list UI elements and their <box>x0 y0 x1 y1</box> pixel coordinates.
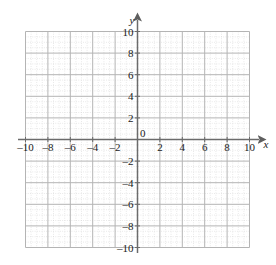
x-tick-label: 8 <box>224 141 230 153</box>
coordinate-plane-figure: –10–8–6–4–2246810 108642–2–4–6–8–10 0 x … <box>0 0 276 265</box>
y-tick-label: 6 <box>128 69 134 81</box>
y-tick-label: –4 <box>122 177 135 189</box>
x-tick-label: –2 <box>109 141 121 153</box>
y-tick-label: 8 <box>128 47 134 59</box>
x-tick-label: –8 <box>41 141 54 153</box>
x-axis-label: x <box>263 138 269 150</box>
origin-label: 0 <box>140 127 146 139</box>
y-tick-label: –8 <box>122 220 135 232</box>
x-tick-label: –4 <box>86 141 99 153</box>
y-tick-label: –6 <box>122 198 135 210</box>
x-tick-label: 4 <box>180 141 186 153</box>
y-tick-label: 10 <box>123 26 135 38</box>
x-tick-label: 6 <box>202 141 208 153</box>
x-tick-label: –6 <box>64 141 77 153</box>
y-tick-label: 4 <box>128 90 134 102</box>
y-tick-label: –10 <box>116 242 134 254</box>
x-tick-label: 10 <box>244 141 256 153</box>
x-tick-label: –10 <box>16 141 34 153</box>
y-tick-label: –2 <box>122 155 134 167</box>
coordinate-plane-svg: –10–8–6–4–2246810 108642–2–4–6–8–10 0 x … <box>0 0 276 265</box>
x-tick-label: 2 <box>157 141 163 153</box>
y-axis-label: y <box>129 14 135 26</box>
y-tick-label: 2 <box>128 112 134 124</box>
